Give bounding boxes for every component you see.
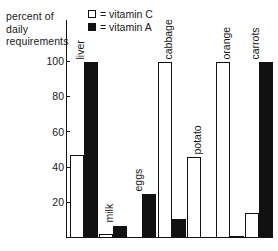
category-label-milk: milk — [104, 204, 115, 223]
bar-group: eggs — [128, 20, 156, 238]
bar-vitamin-c — [245, 213, 259, 238]
bar-group: orange — [216, 20, 244, 238]
bar-vitamin-a — [259, 62, 273, 238]
y-axis-tick: 20 — [26, 202, 70, 203]
category-label-eggs: eggs — [133, 168, 144, 191]
bar-vitamin-c — [70, 155, 84, 238]
y-axis-tick-label: 80 — [52, 91, 64, 102]
y-axis-tick: 60 — [26, 131, 70, 132]
y-axis-tick-label: 40 — [52, 161, 64, 172]
bar-group: cabbage — [158, 20, 186, 238]
y-axis-tick: 40 — [26, 167, 70, 168]
category-label-liver: liver — [75, 40, 86, 59]
category-label-orange: orange — [221, 26, 232, 59]
bar-vitamin-c — [187, 157, 201, 238]
bar-group: carrots — [245, 20, 273, 238]
plot-area: 10080604020 livermilkeggscabbagepotatoor… — [66, 20, 272, 238]
bar-vitamin-a — [113, 226, 127, 238]
bar-vitamin-a — [142, 194, 156, 238]
bar-vitamin-a — [230, 236, 244, 238]
vitamin-bar-chart: percent of daily requirements = vitamin … — [0, 0, 278, 251]
bar-vitamin-a — [172, 219, 186, 238]
bar-group: potato — [187, 20, 215, 238]
bar-group: liver — [70, 20, 98, 238]
legend-item-vitamin-c: = vitamin C — [88, 8, 153, 20]
y-axis-tick-label: 60 — [52, 126, 64, 137]
bar-vitamin-a — [84, 62, 98, 238]
legend-label-vitamin-c: = vitamin C — [100, 8, 153, 20]
bar-vitamin-c — [216, 62, 230, 238]
bar-vitamin-c — [99, 234, 113, 238]
y-axis-line — [66, 20, 67, 238]
category-label-cabbage: cabbage — [162, 19, 173, 59]
category-label-carrots: carrots — [250, 27, 261, 59]
bar-group: milk — [99, 20, 127, 238]
category-label-potato: potato — [191, 125, 202, 154]
open-square-icon — [88, 10, 96, 18]
y-axis-tick-label: 100 — [46, 56, 64, 67]
y-axis-tick: 100 — [26, 61, 70, 62]
y-axis-tick: 80 — [26, 96, 70, 97]
y-axis-tick-label: 20 — [52, 197, 64, 208]
bar-vitamin-c — [158, 62, 172, 238]
